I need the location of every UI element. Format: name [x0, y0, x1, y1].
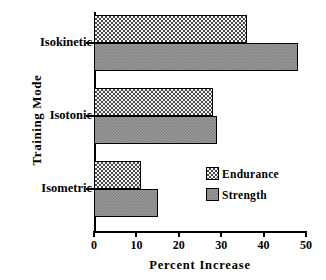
x-tick-label-40: 40 — [244, 238, 284, 253]
x-tick-20 — [178, 231, 180, 237]
x-tick-10 — [135, 231, 137, 237]
x-tick-40 — [263, 231, 265, 237]
legend-label-endurance: Endurance — [222, 168, 279, 180]
x-tick-label-20: 20 — [159, 238, 199, 253]
bar-isotonic-endurance — [94, 88, 213, 116]
x-tick-label-30: 30 — [201, 238, 241, 253]
bar-isotonic-strength — [94, 116, 217, 144]
x-axis-line — [94, 231, 307, 233]
y-tick-label-isometric: Isometric — [0, 181, 92, 196]
x-tick-label-10: 10 — [116, 238, 156, 253]
bar-isokinetic-strength — [94, 43, 298, 71]
legend-swatch-endurance — [206, 167, 219, 180]
bar-isometric-strength — [94, 189, 158, 217]
bar-chart-figure: Training Mode 01020304050 IsokineticIsot… — [0, 0, 326, 280]
legend-label-strength: Strength — [222, 189, 267, 201]
legend-swatch-strength — [206, 188, 219, 201]
legend-item-endurance: Endurance — [206, 163, 279, 184]
bar-isometric-endurance — [94, 161, 141, 189]
legend-item-strength: Strength — [206, 184, 279, 205]
x-tick-30 — [220, 231, 222, 237]
bar-isokinetic-endurance — [94, 15, 247, 43]
x-tick-0 — [93, 231, 95, 237]
x-tick-label-50: 50 — [286, 238, 326, 253]
x-axis-title: Percent Increase — [94, 258, 306, 273]
y-tick-label-isokinetic: Isokinetic — [0, 35, 92, 50]
x-tick-50 — [305, 231, 307, 237]
x-tick-label-0: 0 — [74, 238, 114, 253]
y-tick-label-isotonic: Isotonic — [0, 108, 92, 123]
chart-legend: Endurance Strength — [206, 163, 279, 205]
